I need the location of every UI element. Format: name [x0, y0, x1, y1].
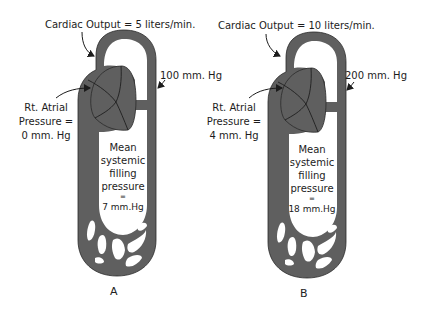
arterial-pressure-arrow-b: [347, 82, 354, 90]
msfp-label-b: Mean systemic filling pressure = 18 mm.H…: [288, 143, 336, 216]
panel-letter-a: A: [110, 285, 118, 298]
msfp-line4: pressure: [100, 180, 146, 193]
cardiac-output-label-a: Cardiac Output = 5 liters/min.: [45, 19, 195, 31]
cardiac-output-label-b: Cardiac Output = 10 liters/min.: [218, 20, 375, 32]
cardiac-output-arrow-b: [266, 34, 280, 56]
rt-atrial-line2: Pressure =: [204, 115, 264, 129]
rt-atrial-line3: 0 mm. Hg: [16, 129, 76, 143]
rt-atrial-line3: 4 mm. Hg: [204, 129, 264, 143]
panel-letter-b: B: [300, 287, 308, 300]
rt-atrial-line1: Rt. Atrial: [16, 101, 76, 115]
msfp-line2: systemic: [100, 154, 146, 167]
msfp-label-a: Mean systemic filling pressure = 7 mm.Hg: [100, 141, 146, 214]
rt-atrial-line2: Pressure =: [16, 115, 76, 129]
msfp-line6: 18 mm.Hg: [288, 203, 336, 216]
msfp-line3: filling: [100, 167, 146, 180]
circulation-diagram: [0, 0, 424, 317]
msfp-line1: Mean: [100, 141, 146, 154]
rt-atrial-line1: Rt. Atrial: [204, 101, 264, 115]
msfp-line4: pressure: [288, 182, 336, 195]
msfp-line1: Mean: [288, 143, 336, 156]
cardiac-output-arrow-a: [82, 32, 94, 56]
msfp-line5: =: [100, 193, 146, 201]
msfp-line6: 7 mm.Hg: [100, 201, 146, 214]
rt-atrial-pressure-label-a: Rt. Atrial Pressure = 0 mm. Hg: [16, 101, 76, 143]
msfp-line5: =: [288, 195, 336, 203]
msfp-line3: filling: [288, 169, 336, 182]
arterial-pressure-label-a: 100 mm. Hg: [160, 70, 222, 82]
rt-atrial-pressure-label-b: Rt. Atrial Pressure = 4 mm. Hg: [204, 101, 264, 143]
msfp-line2: systemic: [288, 156, 336, 169]
arterial-pressure-label-b: 200 mm. Hg: [345, 70, 407, 82]
